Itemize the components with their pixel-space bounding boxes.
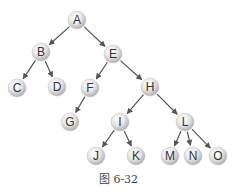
node-label: H <box>146 80 155 94</box>
node-F: F <box>81 79 99 97</box>
node-C: C <box>8 79 26 97</box>
edge-I-J <box>102 130 114 147</box>
node-label: K <box>132 149 140 163</box>
node-L: L <box>176 113 194 131</box>
edge-A-B <box>49 27 69 45</box>
node-label: I <box>118 115 121 129</box>
node-label: L <box>182 115 189 129</box>
node-label: J <box>93 149 99 163</box>
node-M: M <box>161 147 179 165</box>
node-label: F <box>86 81 93 95</box>
node-O: O <box>209 147 227 165</box>
node-H: H <box>141 78 159 96</box>
edge-I-K <box>124 131 131 146</box>
node-label: G <box>65 115 74 129</box>
edge-L-O <box>192 129 210 148</box>
node-N: N <box>184 147 202 165</box>
node-I: I <box>111 113 129 131</box>
node-E: E <box>104 45 122 63</box>
node-G: G <box>61 113 79 131</box>
edge-L-M <box>174 131 181 146</box>
node-label: M <box>165 149 175 163</box>
node-label: O <box>213 149 222 163</box>
node-D: D <box>48 78 66 96</box>
edge-B-D <box>45 61 52 77</box>
node-K: K <box>127 147 145 165</box>
node-label: E <box>109 47 117 61</box>
node-label: C <box>13 81 22 95</box>
node-label: B <box>37 45 45 59</box>
edge-H-I <box>127 95 143 114</box>
edge-E-F <box>96 62 107 79</box>
tree-diagram: ABECDFHGILJKMNO <box>0 0 237 195</box>
node-J: J <box>87 147 105 165</box>
edge-B-C <box>23 60 35 79</box>
edge-A-E <box>84 27 105 47</box>
edge-F-G <box>76 97 85 113</box>
node-label: A <box>73 13 81 27</box>
node-label: N <box>189 149 198 163</box>
node-label: D <box>53 80 62 94</box>
node-A: A <box>68 11 86 29</box>
tree-nodes: ABECDFHGILJKMNO <box>8 11 227 165</box>
figure-caption: 图 6-32 <box>0 170 237 186</box>
node-B: B <box>32 43 50 61</box>
edge-E-H <box>120 61 141 80</box>
edge-L-N <box>187 132 190 146</box>
edge-H-L <box>157 94 177 114</box>
